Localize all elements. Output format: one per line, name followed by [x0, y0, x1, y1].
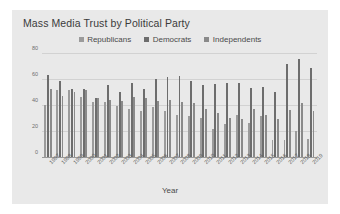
legend-label: Independents: [213, 35, 262, 44]
bar: [157, 101, 159, 158]
y-axis-tick-label: 20: [32, 123, 38, 129]
x-tick-cell: 2012: [221, 160, 233, 188]
chart-legend: RepublicansDemocratsIndependents: [12, 35, 328, 44]
legend-label: Republicans: [87, 35, 131, 44]
bar-group: [185, 54, 197, 158]
y-axis-tick-label: 0: [35, 149, 38, 155]
bar-group: [138, 54, 150, 158]
x-tick-cell: 2015: [257, 160, 269, 188]
y-axis-tick-label: 60: [32, 71, 38, 77]
bar-group: [42, 54, 54, 158]
bar-group: [150, 54, 162, 158]
plot-area: 020406080: [42, 54, 317, 158]
legend-item-independents[interactable]: Independents: [204, 35, 261, 44]
x-axis-title: Year: [12, 186, 328, 195]
x-tick-cell: 2006: [150, 160, 162, 188]
bar: [181, 102, 183, 158]
legend-swatch-icon: [79, 37, 84, 42]
bar-group: [257, 54, 269, 158]
y-axis-tick-label: 80: [32, 45, 38, 51]
bar: [301, 103, 303, 158]
x-tick-cell: 2008: [173, 160, 185, 188]
bar: [217, 113, 219, 159]
x-tick-cell: 2016: [269, 160, 281, 188]
bar: [205, 109, 207, 158]
bar: [74, 92, 76, 158]
x-tick-cell: 1998: [54, 160, 66, 188]
bar-group: [114, 54, 126, 158]
bar-group: [173, 54, 185, 158]
x-tick-cell: 2001: [90, 160, 102, 188]
bar: [229, 118, 231, 158]
bar-group: [126, 54, 138, 158]
bar: [145, 98, 147, 158]
legend-swatch-icon: [204, 37, 209, 42]
legend-swatch-icon: [144, 37, 149, 42]
bar-group: [305, 54, 317, 158]
legend-item-republicans[interactable]: Republicans: [79, 35, 132, 44]
bar-group: [102, 54, 114, 158]
bar: [253, 109, 255, 158]
bar: [97, 98, 99, 158]
x-tick-cell: 1999: [66, 160, 78, 188]
x-tick-cell: 2011: [209, 160, 221, 188]
x-tick-cell: 2010: [197, 160, 209, 188]
x-tick-cell: 2003: [114, 160, 126, 188]
bar: [289, 110, 291, 158]
x-tick-cell: 2007: [162, 160, 174, 188]
bar: [62, 96, 64, 158]
bar-group: [269, 54, 281, 158]
x-tick-cell: 2005: [138, 160, 150, 188]
bar: [265, 115, 267, 158]
chart-card: Mass Media Trust by Political Party Repu…: [12, 10, 328, 204]
x-tick-cell: 2013: [233, 160, 245, 188]
x-tick-cell: 2000: [78, 160, 90, 188]
bar-group: [293, 54, 305, 158]
bar-group: [233, 54, 245, 158]
bar-group: [90, 54, 102, 158]
x-tick-cell: 1997: [42, 160, 54, 188]
bar-group: [66, 54, 78, 158]
legend-label: Democrats: [153, 35, 192, 44]
x-tick-cell: 2017: [281, 160, 293, 188]
bar: [121, 101, 123, 158]
y-axis-tick-label: 40: [32, 97, 38, 103]
bar-group: [221, 54, 233, 158]
bar: [193, 103, 195, 158]
bar-groups: [42, 54, 317, 158]
bar: [50, 89, 52, 158]
bar-group: [245, 54, 257, 158]
bar-group: [162, 54, 174, 158]
bar: [277, 119, 279, 158]
x-tick-cell: 2018: [293, 160, 305, 188]
x-tick-cell: 2009: [185, 160, 197, 188]
chart-title: Mass Media Trust by Political Party: [23, 17, 190, 29]
bar-group: [197, 54, 209, 158]
bar: [133, 97, 135, 158]
legend-item-democrats[interactable]: Democrats: [144, 35, 191, 44]
bar: [169, 100, 171, 159]
x-tick-cell: 2004: [126, 160, 138, 188]
bar-group: [209, 54, 221, 158]
bar-group: [281, 54, 293, 158]
x-tick-cell: 2002: [102, 160, 114, 188]
bar: [241, 119, 243, 158]
bar: [85, 90, 87, 158]
x-tick-cell: 2014: [245, 160, 257, 188]
bar: [109, 100, 111, 159]
bar-group: [54, 54, 66, 158]
x-tick-cell: 2019: [305, 160, 317, 188]
x-axis-tick-labels: 1997199819992000200120022003200420052006…: [42, 160, 317, 188]
bar-group: [78, 54, 90, 158]
bar: [313, 111, 315, 158]
